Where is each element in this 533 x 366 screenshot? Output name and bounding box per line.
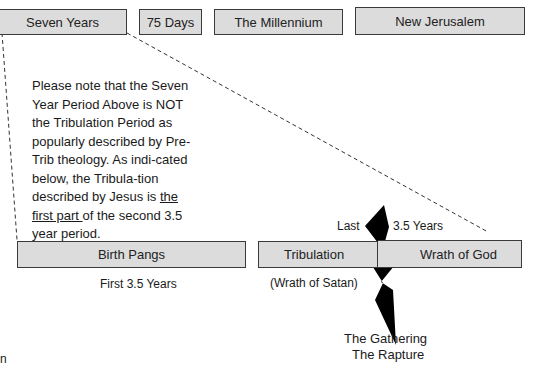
- label-wrath-of-satan: (Wrath of Satan): [270, 276, 358, 290]
- box-millennium: The Millennium: [214, 9, 343, 35]
- box-new-jerusalem: New Jerusalem: [355, 7, 525, 35]
- label-last: Last: [337, 219, 360, 233]
- box-birth-pangs: Birth Pangs: [17, 241, 246, 268]
- box-wrath-of-god: Wrath of God: [378, 240, 522, 268]
- box-tribulation: Tribulation: [258, 241, 378, 268]
- label-3-5-years: 3.5 Years: [393, 219, 443, 233]
- box-seven-years: Seven Years: [0, 9, 127, 35]
- label-the-gathering: The Gathering: [344, 331, 427, 346]
- box-75-days: 75 Days: [139, 9, 202, 35]
- dashed-line-left: [2, 33, 17, 240]
- label-the-rapture: The Rapture: [352, 347, 424, 362]
- lightning-bolt-icon: [365, 205, 396, 345]
- corner-text-fragment: n: [0, 352, 7, 366]
- explanatory-note: Please note that the Seven Year Period A…: [32, 77, 192, 244]
- caption-first-half: First 3.5 Years: [100, 277, 177, 291]
